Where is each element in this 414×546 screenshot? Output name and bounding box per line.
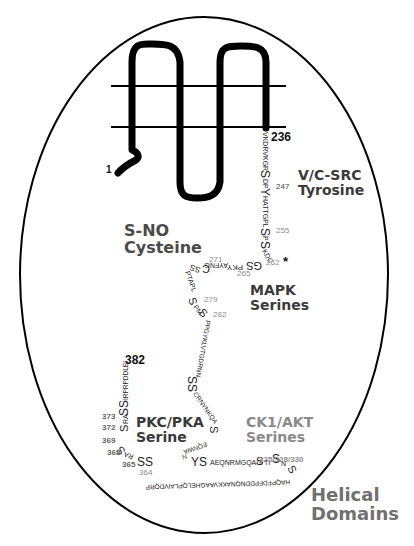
ck1-label-line1: CK1/AKT (246, 415, 313, 430)
sno-cysteine-label: S-NO Cysteine (124, 222, 202, 257)
seq-ppgykl: PPGYKLVTGDRNN (195, 320, 212, 378)
residue-262: 262 (266, 258, 279, 267)
residue-325-328-330: 325/328/330 (259, 455, 304, 464)
chain-end-dot (264, 126, 269, 131)
src-label-line1: V/C-SRC (298, 168, 364, 183)
seq-c271: C (202, 263, 210, 275)
seq-ss-mid: SS (185, 376, 199, 392)
residue-368: 368 (107, 448, 120, 457)
src-tyrosine-label: V/C-SRC Tyrosine (298, 168, 364, 198)
residue-282: 282 (213, 310, 226, 319)
residue-369: 369 (102, 436, 115, 445)
transmembrane-chain (118, 44, 266, 198)
seq-s245: S (258, 170, 272, 178)
residue-236-label: 236 (271, 130, 291, 144)
residue-365: 365 (122, 460, 135, 469)
seq-aeqnrmgqag: AEQNRMGQAG (210, 459, 262, 467)
seq-ss372: SS (117, 400, 131, 416)
residue-255: 255 (276, 226, 289, 235)
sno-label-line2: Cysteine (124, 239, 202, 256)
residue-373: 373 (102, 412, 115, 421)
residue-247: 247 (276, 182, 289, 191)
seq-s255: S (258, 241, 272, 249)
residue-265: 265 (237, 269, 250, 278)
seq-helical-tail: HAQPFDFPDDNQNAKKVAAGHELQPLAIVDQRP (145, 478, 290, 491)
seq-y247: Y (258, 188, 272, 196)
seq-s-mid2: S (208, 426, 220, 433)
residue-262-asterisk: * (283, 254, 288, 269)
mapk-label-line2: Serines (250, 298, 309, 313)
residue-1-label: 1 (106, 164, 112, 175)
ck1-akt-serines-label: CK1/AKT Serines (246, 415, 313, 445)
residue-382-label: 382 (125, 353, 145, 367)
mapk-serines-label: MAPK Serines (250, 283, 309, 313)
seq-ys: YS (191, 455, 207, 469)
pkc-pka-serine-label: PKC/PKA Serine (136, 415, 204, 445)
residue-372: 372 (102, 423, 115, 432)
seq-vkdrvkgr: VKDRVKGR (262, 132, 269, 171)
seq-ss364: SS (137, 455, 153, 469)
mapk-label-line1: MAPK (250, 283, 309, 298)
pkc-label-line1: PKC/PKA (136, 415, 204, 430)
helical-label-line1: Helical (311, 485, 399, 504)
sno-label-line1: S-NO (124, 222, 202, 239)
ck1-label-line2: Serines (246, 430, 313, 445)
diagram-canvas: VKDRVKGR S DP Y HATTGPL S P S KDC GS PKY… (0, 0, 414, 546)
residue-364: 364 (139, 468, 152, 477)
seq-s253: S (258, 228, 272, 236)
residue-279: 279 (204, 295, 217, 304)
seq-hattgpl: HATTGPL (262, 196, 269, 228)
seq-s330: S (285, 463, 299, 475)
helical-domains-label: Helical Domains (311, 485, 399, 524)
pkc-label-line2: Serine (136, 430, 204, 445)
seq-s369: S (118, 425, 130, 432)
seq-n: N (181, 453, 188, 461)
residue-271: 271 (209, 255, 222, 264)
helical-label-line2: Domains (311, 504, 399, 523)
src-label-line2: Tyrosine (298, 183, 364, 198)
